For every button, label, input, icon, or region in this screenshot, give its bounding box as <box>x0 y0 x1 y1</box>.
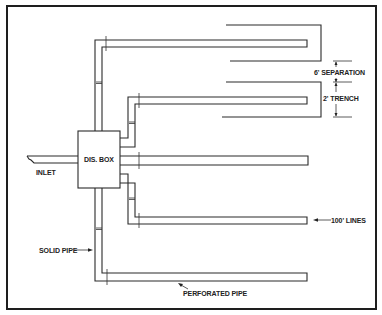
dis-box-label: DIS. BOX <box>84 156 114 163</box>
lateral-pipe-5 <box>95 188 307 285</box>
separation-label: 6' SEPARATION <box>314 69 365 76</box>
trench-label: 2' TRENCH <box>323 95 359 102</box>
lines-label: 100' LINES <box>331 217 366 224</box>
inlet-label: INLET <box>36 169 57 176</box>
perforated-pipe-arrow <box>178 283 188 289</box>
inlet-pipe <box>27 156 78 163</box>
perforated-pipe-label: PERFORATED PIPE <box>183 290 248 297</box>
lines-callout-arrow <box>313 218 331 221</box>
solid-pipe-label: SOLID PIPE <box>39 247 78 254</box>
lateral-pipe-2 <box>120 93 307 147</box>
trench-2 <box>222 82 321 117</box>
lateral-pipe-3 <box>120 152 308 169</box>
lateral-pipe-4 <box>120 174 307 228</box>
septic-field-diagram: DIS. BOX INLET 6' SEPARATION 2' TRENCH 1… <box>0 0 382 315</box>
